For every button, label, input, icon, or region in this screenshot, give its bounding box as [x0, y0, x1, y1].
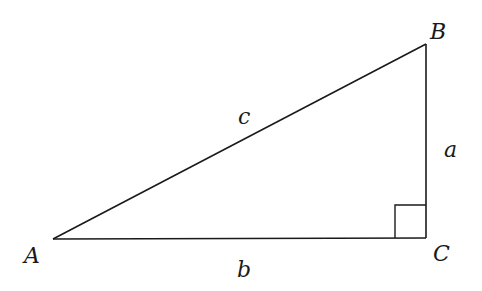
right-angle-marker-icon: [395, 205, 426, 238]
vertex-label-b: B: [429, 19, 446, 44]
triangle-figure: A B C c a b: [0, 0, 482, 291]
side-b-base: [53, 238, 426, 239]
side-c-hypotenuse: [53, 44, 426, 239]
side-label-c: c: [238, 104, 250, 129]
vertex-label-c: C: [433, 241, 450, 266]
right-triangle-diagram: A B C c a b: [0, 0, 482, 291]
side-label-b: b: [237, 257, 251, 282]
side-label-a: a: [444, 137, 457, 162]
vertex-label-a: A: [22, 243, 40, 268]
